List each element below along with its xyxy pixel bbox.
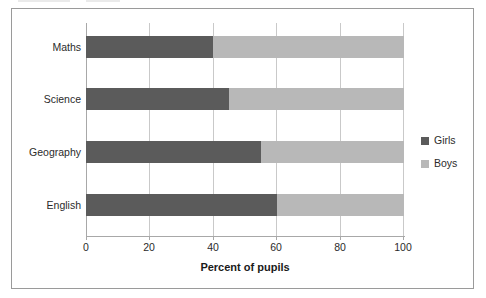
legend-item-boys[interactable]: Boys — [421, 155, 473, 178]
x-tick-label-80: 80 — [320, 241, 360, 253]
legend-item-girls[interactable]: Girls — [421, 132, 473, 155]
tick-mark-80 — [340, 236, 341, 240]
x-tick-label-40: 40 — [193, 241, 233, 253]
x-tick-label-60: 60 — [256, 241, 296, 253]
legend-label-girls: Girls — [434, 132, 456, 148]
bar-row-geography — [86, 141, 404, 163]
tick-mark-100 — [403, 236, 404, 240]
category-label-english: English — [3, 194, 81, 216]
bar-row-science — [86, 88, 404, 110]
bar-row-maths — [86, 36, 404, 58]
legend-label-boys: Boys — [434, 155, 457, 171]
bar-segment-girls[interactable] — [86, 36, 213, 58]
x-tick-label-0: 0 — [66, 241, 106, 253]
category-label-science: Science — [3, 88, 81, 110]
x-axis-title: Percent of pupils — [86, 261, 404, 273]
x-tick-label-20: 20 — [129, 241, 169, 253]
legend-swatch-boys-icon — [421, 160, 429, 168]
bar-segment-boys[interactable] — [261, 141, 404, 163]
x-tick-label-100: 100 — [383, 241, 423, 253]
tick-mark-0 — [86, 236, 87, 240]
tick-mark-60 — [276, 236, 277, 240]
plot-area — [86, 23, 404, 236]
bar-segment-boys[interactable] — [213, 36, 404, 58]
tick-mark-20 — [149, 236, 150, 240]
y-axis-category-labels: Maths Science Geography English — [0, 23, 81, 236]
bar-segment-girls[interactable] — [86, 194, 277, 216]
bar-segment-girls[interactable] — [86, 88, 229, 110]
scan-artifact — [18, 0, 70, 2]
category-label-geography: Geography — [3, 141, 81, 163]
bar-segment-girls[interactable] — [86, 141, 261, 163]
x-axis-line — [86, 236, 405, 237]
bar-row-english — [86, 194, 404, 216]
category-label-maths: Maths — [3, 36, 81, 58]
chart-figure: Maths Science Geography English 0 20 40 … — [0, 0, 486, 298]
scan-artifact — [86, 0, 120, 2]
bar-segment-boys[interactable] — [277, 194, 404, 216]
tick-mark-40 — [213, 236, 214, 240]
chart-legend: Girls Boys — [421, 132, 473, 178]
legend-swatch-girls-icon — [421, 137, 429, 145]
bar-segment-boys[interactable] — [229, 88, 404, 110]
